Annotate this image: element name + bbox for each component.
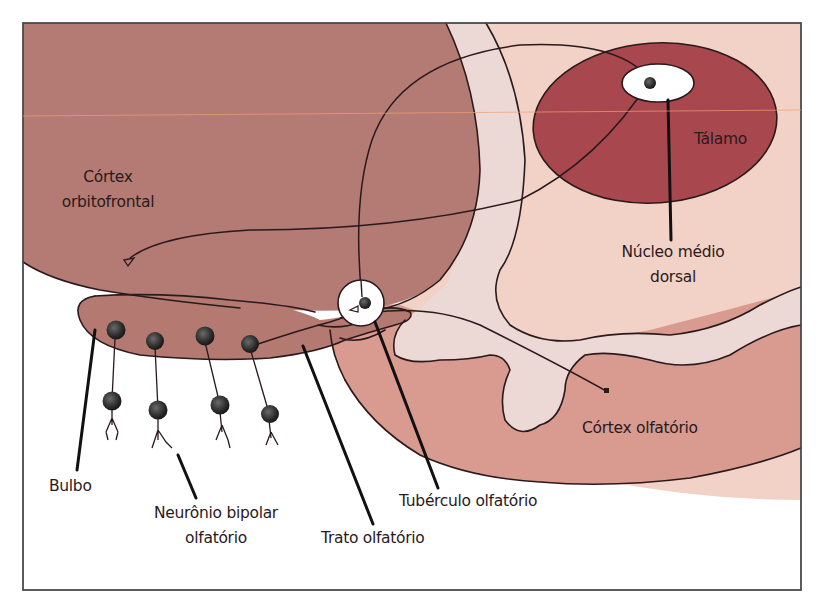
bipolar-cell-icon bbox=[103, 392, 122, 411]
label-mediodorsal-nucleus-line1: Núcleo médio bbox=[622, 243, 725, 262]
bipolar-cell-icon bbox=[211, 396, 230, 415]
olfactory-pathway-diagram bbox=[0, 0, 820, 604]
bipolar-cell-icon bbox=[149, 401, 168, 420]
label-olfactory-cortex: Córtex olfatório bbox=[582, 419, 698, 438]
tubercle-neuron-icon bbox=[359, 297, 371, 309]
mediodorsal-nucleus-node bbox=[622, 64, 694, 102]
label-orbitofrontal-cortex-line2: orbitofrontal bbox=[62, 193, 154, 212]
mediodorsal-neuron-icon bbox=[644, 77, 656, 89]
mitral-cell-icon bbox=[241, 335, 259, 353]
label-bipolar-neuron-line1: Neurônio bipolar bbox=[154, 504, 278, 523]
bipolar-cell-icon bbox=[261, 405, 279, 423]
label-mediodorsal-nucleus-line2: dorsal bbox=[650, 268, 696, 287]
olfactory-cortex-endpoint-icon bbox=[604, 388, 609, 393]
label-olfactory-tubercle: Tubérculo olfatório bbox=[399, 492, 537, 511]
frontal-lobe bbox=[23, 23, 480, 311]
label-orbitofrontal-cortex-line1: Córtex bbox=[83, 168, 132, 187]
label-thalamus: Tálamo bbox=[694, 130, 747, 149]
label-olfactory-tract: Trato olfatório bbox=[321, 529, 425, 548]
label-bipolar-neuron-line2: olfatório bbox=[185, 529, 247, 548]
mitral-cell-icon bbox=[146, 332, 164, 350]
mitral-cell-icon bbox=[196, 327, 215, 346]
label-bulb: Bulbo bbox=[49, 477, 92, 496]
mitral-cell-icon bbox=[107, 321, 126, 340]
